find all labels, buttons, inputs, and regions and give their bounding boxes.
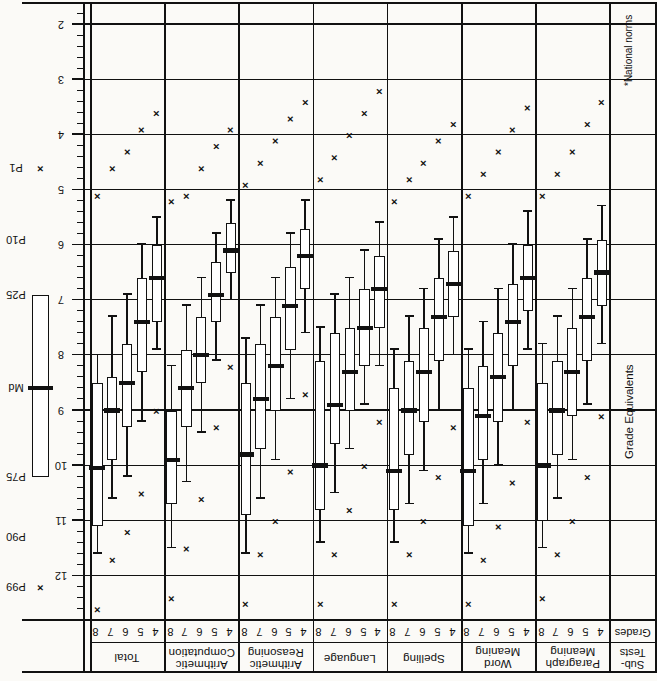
boxplot-whisker-cap[interactable] — [360, 403, 369, 405]
boxplot-extreme-p1[interactable]: × — [448, 121, 459, 127]
header-grades[interactable]: Grades — [609, 621, 655, 643]
axis-major-tick[interactable] — [72, 519, 83, 520]
axis-major-tick[interactable] — [72, 23, 83, 24]
boxplot-median[interactable] — [297, 254, 313, 258]
boxplot-box[interactable] — [315, 361, 325, 510]
boxplot-extreme-p1[interactable]: × — [463, 193, 474, 199]
boxplot-extreme-p99[interactable]: × — [240, 601, 251, 607]
axis-minor-tick[interactable] — [77, 123, 83, 124]
boxplot-median[interactable] — [104, 408, 120, 412]
grade-label[interactable]: 5 — [432, 621, 443, 643]
legend-label-p10[interactable]: P10 — [0, 234, 32, 246]
plot-gridline[interactable] — [83, 23, 655, 24]
boxplot-whisker-cap[interactable] — [241, 337, 250, 339]
plot-gridline[interactable] — [83, 134, 655, 135]
axis-minor-tick[interactable] — [77, 178, 83, 179]
boxplot-extreme-p1[interactable]: × — [255, 160, 266, 166]
grade-label[interactable]: 8 — [239, 621, 250, 643]
grade-label[interactable]: 6 — [120, 621, 131, 643]
boxplot-box[interactable] — [107, 377, 117, 460]
axis-minor-tick[interactable] — [77, 564, 83, 565]
boxplot-whisker-cap[interactable] — [152, 216, 161, 218]
boxplot-median[interactable] — [149, 276, 165, 280]
axis-major-tick[interactable] — [72, 189, 83, 190]
boxplot-extreme-p99[interactable]: × — [404, 551, 415, 557]
axis-tick-label[interactable]: 5 — [49, 184, 73, 196]
grade-label[interactable]: 6 — [343, 621, 354, 643]
axis-tick-label[interactable]: 10 — [49, 460, 73, 472]
boxplot-extreme-p1[interactable]: × — [567, 149, 578, 155]
boxplot-extreme-p99[interactable]: × — [493, 524, 504, 530]
boxplot-whisker-cap[interactable] — [568, 288, 577, 290]
boxplot-median[interactable] — [416, 370, 432, 374]
boxplot-median[interactable] — [164, 458, 180, 462]
axis-major-tick[interactable] — [72, 354, 83, 355]
axis-minor-tick[interactable] — [77, 476, 83, 477]
boxplot-extreme-p1[interactable]: × — [404, 177, 415, 183]
axis-minor-tick[interactable] — [77, 387, 83, 388]
boxplot-box[interactable] — [152, 245, 162, 322]
boxplot-extreme-p1[interactable]: × — [151, 110, 162, 116]
boxplot-extreme-p1[interactable]: × — [136, 127, 147, 133]
boxplot-box[interactable] — [300, 229, 310, 290]
boxplot-extreme-p99[interactable]: × — [374, 419, 385, 425]
boxplot-whisker-cap[interactable] — [286, 398, 295, 400]
band-separator[interactable] — [238, 2, 240, 673]
axis-tick-label[interactable]: 6 — [49, 239, 73, 251]
axis-major-tick[interactable] — [72, 464, 83, 465]
boxplot-extreme-p1[interactable]: × — [92, 193, 103, 199]
boxplot-extreme-p99[interactable]: × — [196, 496, 207, 502]
subtest-label[interactable]: Language — [313, 643, 387, 673]
boxplot-median[interactable] — [446, 282, 462, 286]
boxplot-median[interactable] — [579, 315, 595, 319]
grade-label[interactable]: 6 — [417, 621, 428, 643]
axis-minor-tick[interactable] — [77, 421, 83, 422]
boxplot-whisker-cap[interactable] — [123, 475, 132, 477]
boxplot-extreme-p99[interactable]: × — [507, 480, 518, 486]
boxplot-extreme-p99[interactable]: × — [300, 392, 311, 398]
boxplot-median[interactable] — [178, 386, 194, 390]
legend-extreme-marker-p99[interactable]: × — [35, 585, 46, 591]
boxplot-whisker-cap[interactable] — [271, 459, 280, 461]
boxplot-extreme-p99[interactable]: × — [225, 364, 236, 370]
boxplot-extreme-p1[interactable]: × — [522, 105, 533, 111]
boxplot-box[interactable] — [285, 267, 295, 350]
axis-minor-tick[interactable] — [77, 597, 83, 598]
axis-minor-tick[interactable] — [77, 57, 83, 58]
band-separator[interactable] — [90, 2, 92, 673]
boxplot-extreme-p1[interactable]: × — [225, 127, 236, 133]
grade-label[interactable]: 6 — [491, 621, 502, 643]
axis-minor-tick[interactable] — [77, 310, 83, 311]
axis-major-tick[interactable] — [72, 244, 83, 245]
grade-label[interactable]: 5 — [506, 621, 517, 643]
boxplot-median[interactable] — [564, 370, 580, 374]
boxplot-whisker-cap[interactable] — [167, 547, 176, 549]
grade-label[interactable]: 8 — [313, 621, 324, 643]
axis-minor-tick[interactable] — [77, 112, 83, 113]
grade-label[interactable]: 7 — [179, 621, 190, 643]
plot-gridline[interactable] — [83, 575, 655, 576]
grade-label[interactable]: 4 — [521, 621, 532, 643]
grade-label[interactable]: 8 — [461, 621, 472, 643]
boxplot-whisker-cap[interactable] — [494, 288, 503, 290]
boxplot-extreme-p1[interactable]: × — [507, 127, 518, 133]
boxplot-box[interactable] — [582, 278, 592, 361]
axis-minor-tick[interactable] — [77, 46, 83, 47]
boxplot-median[interactable] — [520, 276, 536, 280]
axis-minor-tick[interactable] — [77, 398, 83, 399]
axis-minor-tick[interactable] — [77, 509, 83, 510]
boxplot-box[interactable] — [330, 333, 340, 443]
boxplot-box[interactable] — [241, 383, 251, 515]
grade-label[interactable]: 4 — [372, 621, 383, 643]
axis-major-tick[interactable] — [72, 78, 83, 79]
axis-tick-label[interactable]: 12 — [49, 570, 73, 582]
boxplot-whisker-cap[interactable] — [286, 232, 295, 234]
boxplot-extreme-p99[interactable]: × — [136, 491, 147, 497]
boxplot-whisker-cap[interactable] — [93, 354, 102, 356]
boxplot-extreme-p99[interactable]: × — [359, 463, 370, 469]
boxplot-whisker-cap[interactable] — [123, 293, 132, 295]
axis-minor-tick[interactable] — [77, 443, 83, 444]
subtest-label[interactable]: Paragraph Meaning — [535, 643, 609, 673]
boxplot-whisker-cap[interactable] — [226, 199, 235, 201]
legend-extreme-marker-p1[interactable]: × — [35, 165, 46, 171]
